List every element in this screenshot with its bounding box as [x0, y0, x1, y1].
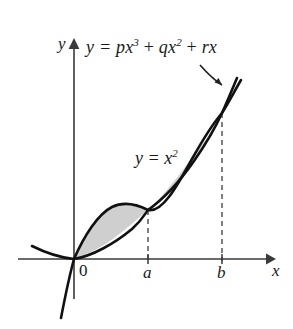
cubic-eq-term2: qx	[159, 37, 176, 57]
x-axis-label: x	[272, 262, 280, 279]
cubic-equation-label: y = px3 + qx2 + rx	[86, 37, 217, 56]
tick-label-b: b	[217, 264, 226, 281]
parabola-eq-exponent: 2	[172, 147, 178, 159]
cubic-eq-term1: px	[116, 37, 133, 57]
cubic-curve	[61, 80, 241, 318]
parabola-eq-lhs: y =	[135, 148, 164, 168]
cubic-eq-term3: rx	[202, 37, 217, 57]
math-figure: y = px3 + qx2 + rx y = x2 y x 0 a b	[0, 0, 293, 329]
parabola-eq-base: x	[164, 148, 172, 168]
cubic-eq-plus2: +	[182, 37, 202, 57]
origin-label: 0	[79, 262, 88, 279]
parabola-equation-label: y = x2	[135, 148, 178, 167]
cubic-eq-plus1: +	[139, 37, 159, 57]
shaded-region-0-to-a	[74, 204, 148, 259]
tick-label-a: a	[143, 264, 152, 281]
cubic-eq-lhs: y =	[86, 37, 116, 57]
parabola-curve	[32, 78, 237, 259]
y-axis-label: y	[58, 35, 66, 52]
cubic-label-arrow	[200, 65, 222, 85]
